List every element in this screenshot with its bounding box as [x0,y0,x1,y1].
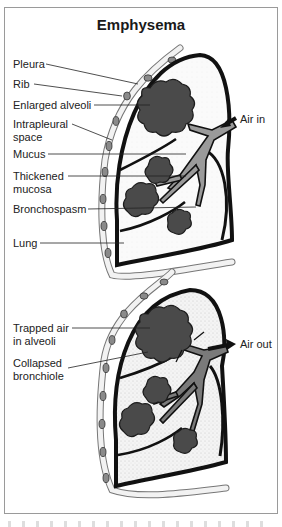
label-intrapleural-line2: space [13,131,42,143]
label-enlarged-alveoli: Enlarged alveoli [13,99,91,111]
lung-inhale [100,48,236,276]
label-thickened-line1: Thickened [13,170,64,182]
label-collapsed-line2: bronchiole [13,370,64,382]
emphysema-illustration [0,0,282,527]
label-intrapleural-line1: Intrapleural [13,118,68,130]
label-air-out: Air out [240,338,272,350]
label-rib: Rib [13,78,30,90]
label-collapsed-line1: Collapsed [13,357,62,369]
label-mucus: Mucus [13,148,45,160]
cropped-caption-fragment [8,521,274,527]
label-bronchospasm: Bronchospasm [13,203,86,215]
label-trapped-air-line1: Trapped air [13,322,69,334]
label-lung: Lung [13,237,37,249]
label-trapped-air-line2: in alveoli [13,335,56,347]
label-air-in: Air in [240,113,265,125]
label-thickened-line2: mucosa [13,183,52,195]
label-pleura: Pleura [13,58,45,70]
lung-exhale [99,272,236,495]
